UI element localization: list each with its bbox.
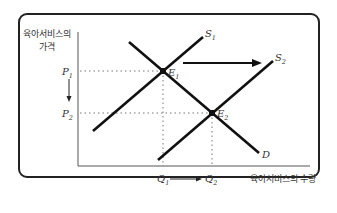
curve-label-s2: S2 (275, 52, 286, 66)
equilibrium-point-e2 (209, 110, 215, 116)
price-decrease-arrow (67, 79, 72, 102)
quantity-label-q2: Q2 (205, 173, 217, 187)
curve-label-s1: S1 (205, 28, 216, 42)
x-axis-label: 육아서비스의 수량 (250, 173, 317, 184)
price-label-p1: P1 (61, 66, 73, 80)
quantity-label-q1: Q1 (157, 173, 169, 187)
supply-shift-arrow (183, 59, 262, 67)
supply-curve-s1 (93, 37, 203, 131)
demand-curve-d (129, 42, 259, 153)
price-label-p2: P2 (61, 108, 73, 122)
curve-label-d: D (261, 149, 270, 160)
y-axis-label-line2: 가격 (39, 41, 55, 52)
supply-demand-diagram: 육아서비스의 가격 육아서비스의 수량 P1 P2 Q1 Q2 S1 S2 D … (0, 0, 337, 213)
equilibrium-point-e1 (160, 68, 166, 74)
y-axis-label-line1: 육아서비스의 (23, 29, 71, 39)
